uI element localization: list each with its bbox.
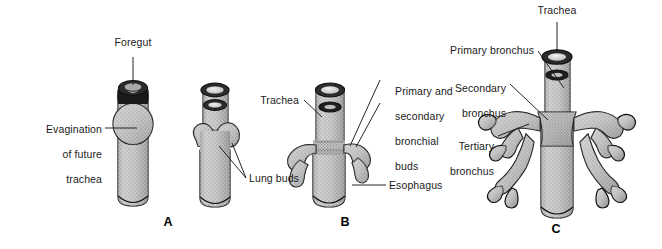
label-tertiary-bronchus: Tertiary bronchus: [435, 127, 494, 190]
leader-lung-buds-2: [232, 143, 246, 178]
leader-bronchial-buds-1: [350, 80, 380, 146]
label-line: Secondary: [455, 82, 506, 94]
label-foregut: Foregut: [101, 36, 165, 49]
label-line: bronchus: [450, 165, 494, 177]
panel-letter-c: C: [548, 222, 564, 236]
panel-letter-b: B: [337, 215, 353, 229]
label-line: bronchus: [462, 107, 506, 119]
label-primary-bronchus: Primary bronchus: [432, 44, 534, 57]
panel-letter-a: A: [160, 215, 176, 229]
figure-foregut-with-evagination: [113, 81, 153, 207]
label-line: trachea: [66, 173, 102, 185]
label-line: bronchial: [395, 135, 439, 147]
figure-trachea-with-bronchial-buds: [288, 83, 371, 207]
anatomy-figure: Foregut Evagination of future trachea Lu…: [0, 0, 662, 249]
label-trachea-c: Trachea: [531, 4, 583, 17]
label-trachea-b: Trachea: [250, 94, 299, 107]
label-secondary-bronchus: Secondary bronchus: [437, 69, 506, 132]
label-line: Evagination: [46, 123, 102, 135]
label-line: Tertiary: [459, 140, 494, 152]
label-evagination-of-future-trachea: Evagination of future trachea: [20, 110, 102, 198]
label-line: buds: [395, 160, 418, 172]
label-line: of future: [63, 148, 102, 160]
label-lung-buds: Lung buds: [249, 172, 319, 185]
